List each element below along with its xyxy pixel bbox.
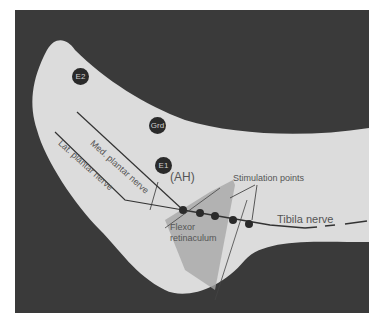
- electrode-ground: Grd: [149, 117, 166, 134]
- diagram-frame: E2 Grd E1 (AH) Med. plantar nerve Lat. p…: [15, 10, 369, 313]
- ah-label: (AH): [170, 170, 195, 184]
- stimulation-points-label: Stimulation points: [233, 173, 304, 183]
- electrode-e2: E2: [72, 68, 89, 85]
- foot-illustration: [15, 10, 369, 313]
- flexor-retinaculum-label: Flexor retinaculum: [170, 222, 217, 244]
- tibial-nerve-label: Tibila nerve: [277, 213, 333, 225]
